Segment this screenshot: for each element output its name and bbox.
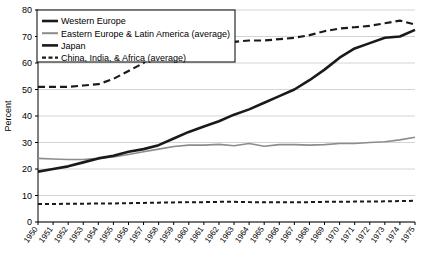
legend-label-3: China, India, & Africa (average) — [61, 53, 186, 63]
y-tick-label: 50 — [22, 85, 32, 95]
legend-label-1: Eastern Europe & Latin America (average) — [61, 29, 230, 39]
chart-legend: Western EuropeEastern Europe & Latin Ame… — [37, 10, 235, 63]
legend-label-2: Japan — [61, 41, 86, 51]
y-axis-label: Percent — [3, 100, 13, 132]
y-tick-label: 40 — [22, 111, 32, 121]
y-tick-label: 30 — [22, 138, 32, 148]
line-chart: 01020304050607080 1950195119521953195419… — [0, 0, 427, 270]
y-tick-label: 80 — [22, 5, 32, 15]
y-tick-label: 10 — [22, 191, 32, 201]
y-tick-label: 20 — [22, 164, 32, 174]
y-tick-label: 70 — [22, 32, 32, 42]
chart-container: 01020304050607080 1950195119521953195419… — [0, 0, 427, 270]
legend-label-0: Western Europe — [61, 16, 126, 26]
y-tick-label: 60 — [22, 58, 32, 68]
